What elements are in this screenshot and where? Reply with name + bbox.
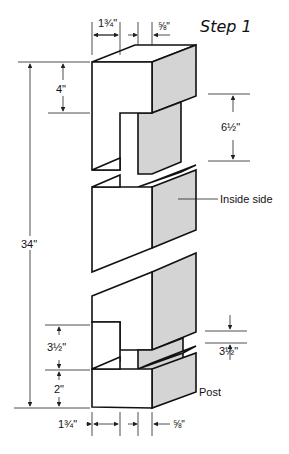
- dim-bottom-offset: ⅝": [173, 419, 185, 430]
- dim-top-width: 1¾": [98, 17, 117, 29]
- dim-top-block-height: 4": [56, 83, 66, 95]
- dim-upper-notch: 6½": [221, 121, 240, 133]
- lower-section: [92, 253, 196, 408]
- dim-lower-notch-right: 3½": [219, 345, 238, 357]
- dim-top-offset: ⅝": [158, 21, 170, 32]
- label-post: Post: [199, 386, 221, 398]
- bottom-block-front-face: [92, 369, 152, 408]
- middle-section: [92, 165, 196, 272]
- dim-total-height: 34": [21, 238, 37, 250]
- dim-lower-notch-left: 3½": [47, 341, 66, 353]
- middle-block-front-face: [92, 187, 152, 272]
- step-title: Step 1: [200, 17, 252, 36]
- label-inside-side: Inside side: [220, 193, 273, 205]
- dim-bottom-block-height: 2": [54, 383, 64, 395]
- middle-notch-ledge: [92, 175, 120, 187]
- middle-block-side-face: [152, 170, 196, 248]
- upper-section: [92, 45, 196, 174]
- post-diagram: Step 1 1¾" ⅝" 4" 6½" Inside side 34" 3½"…: [0, 0, 289, 454]
- lower-side-face: [152, 253, 196, 350]
- dim-bottom-width: 1¾": [58, 418, 77, 430]
